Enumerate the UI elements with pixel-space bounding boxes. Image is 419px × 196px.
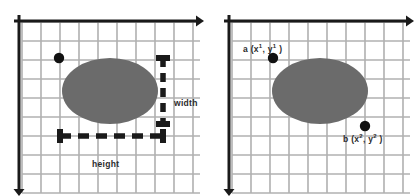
shape-ellipse (272, 58, 368, 124)
point-a-dot (268, 53, 278, 63)
point-b-end: ) (377, 134, 383, 144)
width-label: width (174, 99, 198, 108)
point-a-mid: , y (263, 44, 273, 54)
right-panel-graphics (210, 0, 419, 196)
point-b-label: b (x2, y2 ) (343, 133, 383, 143)
point-coordinates-panel (210, 0, 419, 196)
point-b-dot (360, 121, 370, 131)
shape-ellipse (62, 58, 158, 124)
width-cap-top (156, 55, 170, 61)
point-a-end: ) (277, 44, 283, 54)
point-a-base: a (x (243, 44, 259, 54)
height-cap-left (57, 129, 63, 143)
x-axis-arrow-icon (196, 16, 204, 27)
corner-dot (54, 53, 64, 63)
point-b-base: b (x (343, 134, 359, 144)
point-a-label: a (x1, y1 ) (243, 43, 282, 53)
figure-canvas: width height a (x1, y1 ) b (x2, y2 ) (0, 0, 419, 196)
x-axis-arrow-icon (406, 16, 414, 27)
height-cap-right (160, 129, 166, 143)
point-b-mid: , y (363, 134, 373, 144)
width-cap-bottom (156, 121, 170, 127)
height-label: height (92, 160, 119, 169)
